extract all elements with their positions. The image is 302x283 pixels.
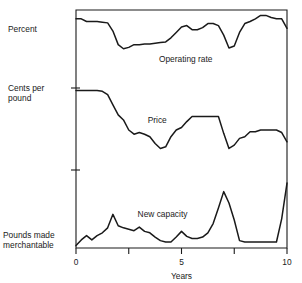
axis-label-cents-per-pound-line1: Cents per <box>8 83 45 93</box>
series-line-operating-rate <box>76 15 287 48</box>
series-label-operating-rate: Operating rate <box>159 54 213 64</box>
x-tick-label-10: 10 <box>282 257 292 267</box>
series-line-price <box>76 91 287 149</box>
series-label-new-capacity: New capacity <box>138 209 189 219</box>
axis-label-pounds-made-merchantable-line2: merchantable <box>3 240 54 250</box>
axis-label-percent: Percent <box>8 24 38 34</box>
axis-label-pounds-made-merchantable-line1: Pounds made <box>3 230 55 240</box>
chart-svg: Percent Cents per pound Pounds made merc… <box>0 0 302 283</box>
x-tick-label-5: 5 <box>179 257 184 267</box>
x-tick-label-0: 0 <box>74 257 79 267</box>
chart-figure: Percent Cents per pound Pounds made merc… <box>0 0 302 283</box>
axis-label-cents-per-pound-line2: pound <box>8 93 32 103</box>
series-label-price: Price <box>148 115 167 125</box>
x-axis-title: Years <box>171 271 192 281</box>
